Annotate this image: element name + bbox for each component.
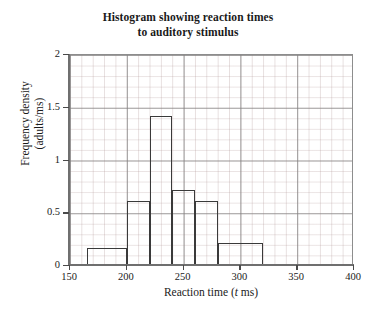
- y-axis-tick: [63, 54, 69, 55]
- chart-title: Histogram showing reaction times to audi…: [0, 10, 376, 39]
- y-axis-title-line-1: Frequency density: [19, 44, 33, 204]
- y-axis-tick: [63, 265, 69, 266]
- x-axis-title: Reaction time (t ms): [69, 286, 353, 298]
- y-axis-tick: [63, 160, 69, 161]
- chart-title-line-2: to auditory stimulus: [0, 25, 376, 40]
- histogram-bars: [70, 55, 352, 264]
- x-axis-tick-label: 250: [160, 270, 206, 283]
- x-axis-tick-label: 300: [216, 270, 262, 283]
- histogram-bar: [195, 201, 218, 264]
- x-axis-line: [69, 264, 354, 266]
- x-axis-tick-label: 200: [103, 270, 149, 283]
- x-axis-tick-label: 150: [46, 270, 92, 283]
- x-axis-title-prefix: Reaction time (: [164, 286, 235, 298]
- y-axis-title: Frequency density (adults/ms): [19, 44, 46, 204]
- x-axis-tick-label: 350: [273, 270, 319, 283]
- histogram-bar: [127, 201, 150, 264]
- plot-area: [69, 54, 353, 265]
- y-axis-title-line-2: (adults/ms): [32, 44, 46, 204]
- x-axis-title-suffix: ms): [238, 286, 258, 298]
- chart-title-line-1: Histogram showing reaction times: [0, 10, 376, 25]
- x-axis-tick-label: 400: [330, 270, 376, 283]
- y-axis-tick: [63, 107, 69, 108]
- histogram-bar: [172, 190, 195, 264]
- histogram-bar: [87, 248, 127, 264]
- histogram-bar: [218, 243, 263, 264]
- y-axis-tick: [63, 212, 69, 213]
- y-axis-tick-label: 0: [32, 258, 60, 271]
- y-axis-tick-label: 0.5: [32, 205, 60, 218]
- histogram-bar: [150, 116, 173, 264]
